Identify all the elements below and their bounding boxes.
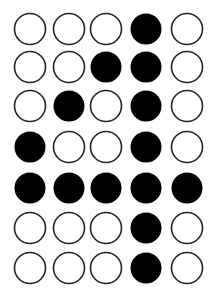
filled-dot [172, 173, 203, 204]
dot-matrix-grid [0, 0, 215, 301]
empty-dot [15, 91, 46, 122]
empty-dot [172, 52, 203, 83]
filled-dot [131, 173, 162, 204]
empty-dot [172, 132, 203, 163]
filled-dot [91, 173, 122, 204]
filled-dot [91, 52, 122, 83]
filled-dot [15, 173, 46, 204]
filled-dot [131, 132, 162, 163]
empty-dot [54, 52, 85, 83]
filled-dot [131, 14, 162, 45]
filled-dot [131, 253, 162, 284]
empty-dot [172, 253, 203, 284]
empty-dot [54, 132, 85, 163]
empty-dot [54, 14, 85, 45]
filled-dot [131, 52, 162, 83]
empty-dot [15, 213, 46, 244]
empty-dot [15, 52, 46, 83]
empty-dot [91, 91, 122, 122]
empty-dot [54, 213, 85, 244]
empty-dot [91, 213, 122, 244]
empty-dot [15, 253, 46, 284]
empty-dot [172, 213, 203, 244]
filled-dot [54, 91, 85, 122]
filled-dot [15, 132, 46, 163]
empty-dot [91, 253, 122, 284]
empty-dot [172, 14, 203, 45]
empty-dot [15, 14, 46, 45]
filled-dot [54, 173, 85, 204]
empty-dot [172, 91, 203, 122]
empty-dot [91, 14, 122, 45]
filled-dot [131, 91, 162, 122]
empty-dot [91, 132, 122, 163]
filled-dot [131, 213, 162, 244]
empty-dot [54, 253, 85, 284]
